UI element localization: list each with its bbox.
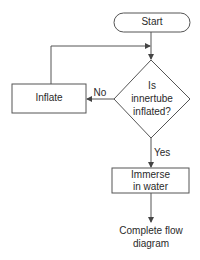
no-label: No (92, 87, 108, 99)
decision-label-line2: innertube (114, 93, 190, 105)
start-label: Start (114, 16, 190, 28)
immerse-label-line2: in water (112, 181, 189, 193)
immerse-label-line1: Immerse (112, 169, 189, 181)
end-label-line2: diagram (106, 238, 196, 250)
decision-label-line1: Is (114, 80, 190, 92)
inflate-label: Inflate (12, 92, 86, 104)
yes-label: Yes (154, 147, 174, 159)
flowchart-canvas (0, 0, 200, 260)
end-label-line1: Complete flow (106, 225, 196, 237)
decision-label-line3: inflated? (114, 106, 190, 118)
